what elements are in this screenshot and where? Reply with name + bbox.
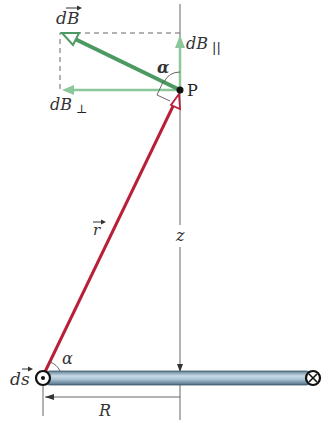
dB-parallel-subscript: || bbox=[212, 40, 221, 55]
dB-parallel-vector bbox=[175, 35, 185, 88]
dB-perp-subscript: ⊥ bbox=[76, 102, 87, 116]
z-label: z bbox=[175, 226, 185, 245]
ring-rod bbox=[43, 371, 313, 385]
alpha-arc-bottom bbox=[50, 362, 60, 371]
point-P-label: P bbox=[187, 81, 198, 100]
point-P bbox=[177, 87, 184, 94]
R-label: R bbox=[98, 401, 111, 420]
dB-parallel-label: dB bbox=[186, 34, 208, 53]
r-label: r bbox=[93, 221, 101, 239]
alpha-label-bottom: α bbox=[62, 349, 73, 368]
current-into-page-icon bbox=[306, 371, 320, 385]
current-out-of-page-icon bbox=[36, 371, 50, 385]
ds-label: ds bbox=[10, 369, 30, 389]
r-vector bbox=[43, 94, 180, 376]
alpha-label-top: α bbox=[157, 58, 169, 77]
loop-field-diagram: dB dB || dB ⊥ α P z r α ds R bbox=[0, 0, 336, 433]
dB-perp-label: dB bbox=[50, 95, 72, 114]
dB-label: dB bbox=[56, 8, 79, 28]
